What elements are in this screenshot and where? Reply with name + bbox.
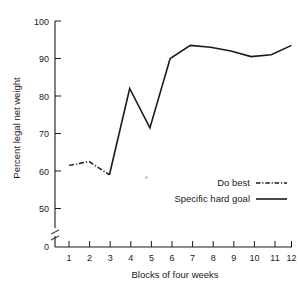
x-tick-label-11: 11 xyxy=(270,253,279,263)
x-tick-label-8: 8 xyxy=(211,253,216,263)
y-tick-label-50: 50 xyxy=(39,204,49,214)
x-tick-label-4: 4 xyxy=(128,253,133,263)
scan-speck-artifact xyxy=(146,177,148,179)
x-tick-label-2: 2 xyxy=(87,253,92,263)
y-tick-label-60: 60 xyxy=(39,167,49,177)
x-tick-label-3: 3 xyxy=(108,253,113,263)
y-tick-label-80: 80 xyxy=(39,92,49,102)
x-tick-label-5: 5 xyxy=(149,253,154,263)
y-axis-title: Percent legal net weight xyxy=(11,77,22,179)
x-tick-label-1: 1 xyxy=(66,253,71,263)
y-tick-label-0: 0 xyxy=(44,242,49,252)
x-tick-label-10: 10 xyxy=(249,253,259,263)
x-tick-label-6: 6 xyxy=(169,253,174,263)
y-tick-label-90: 90 xyxy=(39,54,49,64)
series-line-do-best xyxy=(69,162,109,175)
x-axis-title: Blocks of four weeks xyxy=(131,269,218,280)
x-tick-label-9: 9 xyxy=(231,253,236,263)
y-axis-ticks: 100 90 80 70 60 50 0 xyxy=(34,17,61,253)
x-tick-label-12: 12 xyxy=(286,253,296,263)
legend-label-specific-hard-goal: Specific hard goal xyxy=(174,193,250,204)
series-line-specific-hard-goal xyxy=(109,45,291,174)
y-tick-label-100: 100 xyxy=(34,17,49,27)
chart-figure: 100 90 80 70 60 50 0 1 2 3 4 5 xyxy=(0,0,300,289)
x-tick-label-7: 7 xyxy=(190,253,195,263)
legend-label-do-best: Do best xyxy=(217,177,250,188)
x-axis-ticks: 1 2 3 4 5 6 7 8 9 10 11 12 xyxy=(66,241,296,263)
chart-legend: Do best Specific hard goal xyxy=(174,177,287,204)
y-tick-label-70: 70 xyxy=(39,129,49,139)
line-chart: 100 90 80 70 60 50 0 1 2 3 4 5 xyxy=(0,0,300,289)
y-axis-break-mark-upper xyxy=(51,230,59,234)
